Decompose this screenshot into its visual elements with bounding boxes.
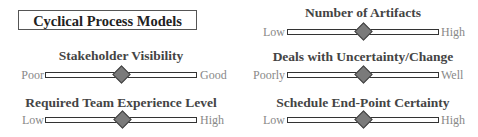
slider-label-schedule-certainty: Schedule End-Point Certainty	[248, 95, 478, 111]
slider-number-of-artifacts: Low High	[240, 27, 478, 39]
slider-team-experience: Low High	[0, 115, 240, 127]
slider-thumb-diamond-icon	[113, 110, 131, 128]
slider-stakeholder-visibility: Poor Good	[0, 70, 240, 82]
slider-max-label: High	[200, 113, 224, 128]
slider-min-label: Poor	[21, 68, 44, 83]
slider-max-label: High	[441, 25, 465, 40]
slider-schedule-certainty: Low High	[240, 115, 478, 127]
diagram-title: Cyclical Process Models	[33, 13, 182, 29]
slider-min-label: Low	[22, 113, 44, 128]
slider-label-number-of-artifacts: Number of Artifacts	[248, 5, 478, 21]
slider-max-label: Well	[441, 68, 463, 83]
title-box: Cyclical Process Models	[18, 10, 197, 30]
slider-thumb-diamond-icon	[354, 110, 372, 128]
slider-max-label: High	[441, 113, 465, 128]
slider-thumb-diamond-icon	[112, 65, 130, 83]
slider-label-uncertainty-change: Deals with Uncertainty/Change	[248, 49, 478, 65]
slider-max-label: Good	[200, 68, 227, 83]
slider-min-label: Poorly	[253, 68, 285, 83]
slider-thumb-diamond-icon	[354, 65, 372, 83]
slider-uncertainty-change: Poorly Well	[240, 70, 478, 82]
slider-label-team-experience: Required Team Experience Level	[6, 95, 236, 111]
slider-label-stakeholder-visibility: Stakeholder Visibility	[6, 48, 236, 64]
slider-min-label: Low	[263, 113, 285, 128]
slider-thumb-diamond-icon	[354, 22, 372, 40]
slider-min-label: Low	[263, 25, 285, 40]
